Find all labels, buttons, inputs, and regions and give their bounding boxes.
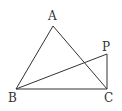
segment-ab xyxy=(16,26,53,89)
label-a: A xyxy=(47,9,57,23)
segment-bp xyxy=(16,54,107,89)
label-p: P xyxy=(102,40,110,54)
geometry-diagram: A P B C xyxy=(0,0,122,111)
label-b: B xyxy=(8,91,17,105)
label-c: C xyxy=(104,91,113,105)
